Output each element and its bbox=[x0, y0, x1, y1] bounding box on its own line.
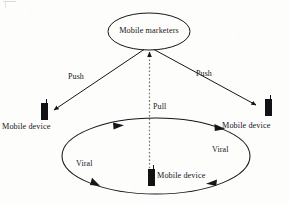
pull-label: Pull bbox=[153, 103, 166, 111]
push-right-label: Push bbox=[196, 70, 212, 78]
device-left-label: Mobile device bbox=[2, 123, 50, 131]
viral-arrowhead-bottom-left bbox=[89, 178, 102, 189]
viral-left-label: Viral bbox=[76, 160, 92, 168]
viral-arrowhead-bottom-right bbox=[206, 180, 217, 186]
viral-right-label: Viral bbox=[212, 146, 228, 154]
push-left-label: Push bbox=[68, 73, 84, 81]
handset-body-part bbox=[265, 99, 272, 116]
handset-body-part bbox=[148, 169, 155, 186]
viral-arrowhead-top bbox=[113, 123, 124, 130]
device-right-label: Mobile device bbox=[222, 122, 270, 130]
figure-canvas: Mobile marketers Push Push Pull Viral Vi… bbox=[0, 0, 289, 203]
marketers-label: Mobile marketers bbox=[108, 27, 190, 35]
handset-body-part bbox=[41, 103, 48, 120]
device-bottom-label: Mobile device bbox=[157, 172, 205, 180]
